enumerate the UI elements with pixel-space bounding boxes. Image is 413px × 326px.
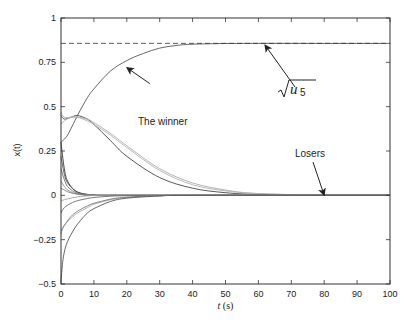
x-tick-label: 20 <box>122 289 132 299</box>
series-decay-5 <box>61 188 390 195</box>
annotation-winner: The winner <box>138 116 188 127</box>
y-tick-label: 0.5 <box>43 102 56 112</box>
series-winner <box>61 43 390 142</box>
x-tick-label: 40 <box>188 289 198 299</box>
series-neg-4 <box>61 195 390 231</box>
y-tick-label: −0.25 <box>33 235 56 245</box>
x-tick-label: 80 <box>319 289 329 299</box>
x-tick-label: 70 <box>286 289 296 299</box>
series-loser-hump-dark <box>61 115 390 195</box>
x-tick-label: 10 <box>89 289 99 299</box>
x-tick-label: 0 <box>58 289 63 299</box>
series-layer <box>61 43 390 280</box>
plot-frame <box>61 18 390 284</box>
x-tick-label: 50 <box>220 289 230 299</box>
y-tick-label: 0.25 <box>38 146 56 156</box>
annotation-losers: Losers <box>295 148 325 159</box>
x-axis-label: t (s) <box>218 300 234 312</box>
series-loser-light-2 <box>61 117 390 196</box>
x-tick-label: 60 <box>253 289 263 299</box>
annotation-sqrt-u5-subscript: 5 <box>300 87 306 98</box>
annotations: The winneru5Losers <box>127 45 325 195</box>
chart: 0102030405060708090100−0.5−0.2500.250.50… <box>0 0 413 326</box>
x-tick-label: 30 <box>155 289 165 299</box>
y-tick-label: 1 <box>51 13 56 23</box>
y-tick-label: 0 <box>51 190 56 200</box>
series-loser-hump-light <box>61 112 390 195</box>
y-tick-label: −0.5 <box>38 279 56 289</box>
x-tick-label: 90 <box>352 289 362 299</box>
series-neg-5 <box>61 195 390 280</box>
y-tick-label: 0.75 <box>38 57 56 67</box>
series-neg-2 <box>61 195 390 213</box>
annotation-sqrt-u5: u <box>290 81 298 97</box>
series-decay-4 <box>61 181 390 195</box>
series-decay-1 <box>61 142 390 195</box>
y-axis-label: x(t) <box>12 144 22 157</box>
series-decay-2 <box>61 156 390 195</box>
x-tick-label: 100 <box>382 289 397 299</box>
axis-ticks: 0102030405060708090100−0.5−0.2500.250.50… <box>33 13 397 299</box>
